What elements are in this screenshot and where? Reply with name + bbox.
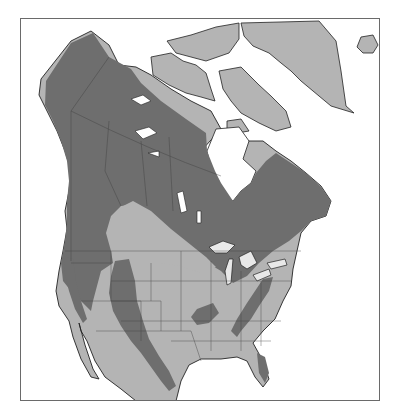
map-frame (20, 18, 380, 401)
north-america-map (21, 19, 380, 401)
iceland (357, 35, 378, 53)
